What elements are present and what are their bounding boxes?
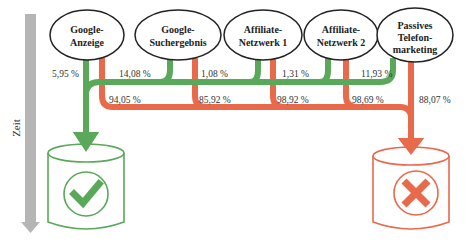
success-pct-affiliate-1: 1,08 % bbox=[201, 69, 228, 79]
svg-text:Telefon-: Telefon- bbox=[398, 32, 433, 43]
failure-pct-affiliate-1: 98,92 % bbox=[277, 95, 309, 105]
check-icon bbox=[74, 184, 99, 203]
svg-text:Affiliate-: Affiliate- bbox=[322, 24, 360, 35]
cross-icon bbox=[404, 181, 428, 205]
success-pct-google-ad: 5,95 % bbox=[52, 69, 79, 79]
success-pct-affiliate-2: 1,31 % bbox=[282, 69, 309, 79]
svg-text:marketing: marketing bbox=[393, 44, 437, 55]
failure-pct-google-search: 85,92 % bbox=[199, 95, 231, 105]
time-axis: Zeit bbox=[10, 14, 40, 233]
source-node-phone-marketing: Passives Telefon- marketing bbox=[377, 8, 453, 62]
svg-text:Anzeige: Anzeige bbox=[70, 37, 104, 48]
failure-database bbox=[373, 138, 449, 229]
svg-text:Google-: Google- bbox=[161, 24, 194, 35]
success-pct-google-search: 14,08 % bbox=[119, 69, 151, 79]
success-flow-google-search bbox=[160, 58, 170, 82]
success-pct-phone: 11,93 % bbox=[361, 69, 392, 79]
svg-text:Suchergebnis: Suchergebnis bbox=[149, 37, 206, 48]
success-flow-affiliate-1 bbox=[250, 58, 258, 82]
svg-text:Netzwerk 2: Netzwerk 2 bbox=[317, 37, 366, 48]
failure-pct-phone: 88,07 % bbox=[419, 95, 451, 105]
failure-pct-affiliate-2: 98,69 % bbox=[352, 95, 384, 105]
svg-text:Passives: Passives bbox=[398, 20, 433, 31]
percentage-labels: 5,95 % 14,08 % 1,08 % 1,31 % 11,93 % 94,… bbox=[52, 69, 451, 105]
source-node-affiliate-2: Affiliate- Netzwerk 2 bbox=[304, 10, 378, 60]
source-node-google-search: Google- Suchergebnis bbox=[135, 10, 221, 60]
success-flow-affiliate-2 bbox=[320, 58, 328, 82]
svg-text:Affiliate-: Affiliate- bbox=[244, 24, 282, 35]
source-node-affiliate-1: Affiliate- Netzwerk 1 bbox=[224, 10, 302, 60]
success-database bbox=[48, 132, 124, 229]
svg-text:Netzwerk 1: Netzwerk 1 bbox=[239, 37, 288, 48]
source-node-google-ad: Google- Anzeige bbox=[50, 10, 124, 60]
failure-pct-google-ad: 94,05 % bbox=[109, 95, 141, 105]
svg-text:Google-: Google- bbox=[70, 24, 103, 35]
conversion-flow-diagram: Zeit Google- Anzeige Google- Suchergebni… bbox=[0, 0, 467, 243]
time-axis-label: Zeit bbox=[10, 119, 22, 137]
